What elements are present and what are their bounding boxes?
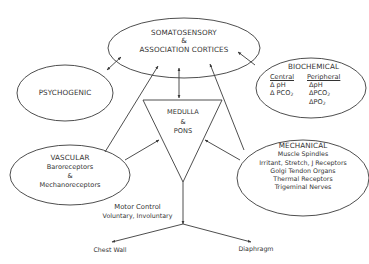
motor-control-subtitle: Voluntary, Involuntary — [95, 212, 180, 221]
biochemical-title: BIOCHEMICAL — [266, 63, 361, 71]
vascular-line1: Baroreceptors — [20, 163, 120, 172]
edge-vascular-cortices — [105, 66, 158, 152]
edge-motor-chestwall — [112, 224, 183, 242]
diaphragm-label: Diaphragm — [226, 245, 286, 252]
mechanical-title: MECHANICAL — [238, 141, 368, 150]
mechanical-label: MECHANICAL Muscle Spindles Irritant, Str… — [238, 141, 368, 191]
biochemical-peripheral: Peripheral ΔpH ΔPCO2 ΔPO2 — [307, 73, 340, 107]
medulla-line2: & — [153, 118, 213, 128]
medulla-line1: MEDULLA — [153, 108, 213, 118]
mechanical-item: Golgi Tendon Organs — [238, 167, 368, 175]
biochemical-central: Central Δ pH Δ PCO2 — [270, 73, 294, 98]
central-item-pco2: Δ PCO2 — [270, 89, 294, 98]
vascular-line3: Mechanoreceptors — [20, 181, 120, 190]
mechanical-item: Muscle Spindles — [238, 150, 368, 158]
mechanical-item: Thermal Receptors — [238, 175, 368, 183]
peripheral-item-po2: ΔPO2 — [307, 98, 340, 107]
peripheral-header: Peripheral — [307, 73, 340, 81]
cortices-label: SOMATOSENSORY & ASSOCIATION CORTICES — [124, 29, 244, 54]
peripheral-item-ph: ΔpH — [307, 81, 340, 89]
edge-vascular-medulla — [125, 140, 159, 160]
motor-control-label: Motor Control Voluntary, Involuntary — [95, 203, 180, 221]
edge-biochemical-cortices — [238, 52, 255, 65]
mechanical-item: Irritant, Stretch, J Receptors — [238, 159, 368, 167]
medulla-line3: PONS — [153, 127, 213, 137]
vascular-label: VASCULAR Baroreceptors & Mechanoreceptor… — [20, 153, 120, 189]
cortices-line3: ASSOCIATION CORTICES — [124, 46, 244, 54]
vascular-title: VASCULAR — [20, 153, 120, 163]
psychogenic-label: PSYCHOGENIC — [25, 89, 105, 97]
chest-wall-label: Chest Wall — [80, 246, 140, 253]
edge-motor-diaphragm — [183, 224, 251, 242]
medulla-label: MEDULLA & PONS — [153, 108, 213, 137]
peripheral-item-pco2: ΔPCO2 — [307, 89, 340, 98]
mechanical-item: Trigeminal Nerves — [238, 183, 368, 191]
central-header: Central — [270, 73, 294, 81]
edge-mechanical-cortices — [210, 64, 244, 150]
edge-mechanical-medulla — [205, 140, 240, 160]
central-item-ph: Δ pH — [270, 81, 294, 89]
vascular-line2: & — [20, 172, 120, 181]
motor-control-title: Motor Control — [95, 203, 180, 212]
